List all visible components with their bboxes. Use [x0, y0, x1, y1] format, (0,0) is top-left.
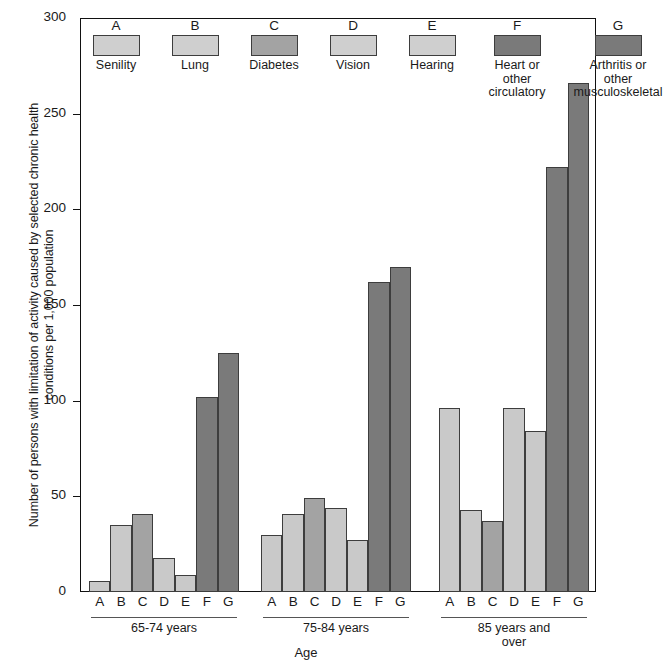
bar-65-74-years-D[interactable]: [153, 558, 174, 592]
bar-75-84-years-E[interactable]: [347, 540, 368, 592]
group-rule: [91, 617, 237, 618]
x-axis-label-F: F: [375, 594, 383, 609]
bar-65-74-years-A[interactable]: [89, 581, 110, 592]
bar-85-years-and-over-F[interactable]: [546, 167, 567, 592]
legend-label-line: Arthritis or: [563, 59, 667, 73]
bar-65-74-years-E[interactable]: [175, 575, 196, 592]
y-axis-tick-mark: [73, 209, 80, 210]
y-axis-tick-mark: [73, 401, 80, 402]
legend-key-letter: G: [563, 18, 667, 33]
y-axis-tick-label: 200: [43, 200, 66, 215]
chart-legend: ASenilityBLungCDiabetesDVisionEHearingFH…: [80, 18, 596, 108]
x-axis-title: Age: [0, 645, 612, 660]
y-axis-tick-mark: [73, 114, 80, 115]
x-axis-label-B: B: [467, 594, 476, 609]
legend-label-line: musculoskeletal: [563, 86, 667, 100]
bar-85-years-and-over-G[interactable]: [568, 83, 589, 592]
bar-75-84-years-G[interactable]: [390, 267, 411, 592]
bar-75-84-years-D[interactable]: [325, 508, 346, 592]
legend-label: Heart orothercirculatory: [462, 59, 572, 100]
bar-65-74-years-C[interactable]: [132, 514, 153, 592]
legend-key-letter: F: [462, 18, 572, 33]
x-axis-label-A: A: [95, 594, 104, 609]
y-axis-title-line-1: Number of persons with limitation of act…: [27, 35, 42, 595]
legend-label-line: other: [462, 73, 572, 87]
legend-swatch-icon: [93, 35, 140, 56]
bar-85-years-and-over-A[interactable]: [439, 408, 460, 592]
x-axis-label-C: C: [138, 594, 148, 609]
legend-item-G[interactable]: GArthritis orothermusculoskeletal: [563, 18, 667, 100]
group-label: 65-74 years: [131, 621, 197, 635]
x-axis-label-C: C: [310, 594, 320, 609]
bar-85-years-and-over-B[interactable]: [460, 510, 481, 592]
x-axis-label-G: G: [223, 594, 234, 609]
x-axis-label-C: C: [488, 594, 498, 609]
x-axis-label-E: E: [531, 594, 540, 609]
legend-label-line: other: [563, 73, 667, 87]
legend-swatch-icon: [172, 35, 219, 56]
group-rule: [441, 617, 587, 618]
legend-swatch-icon: [595, 35, 642, 56]
x-axis-label-G: G: [395, 594, 406, 609]
x-axis-label-E: E: [353, 594, 362, 609]
y-axis-tick-label: 150: [43, 296, 66, 311]
bar-65-74-years-B[interactable]: [110, 525, 131, 592]
x-axis-label-B: B: [117, 594, 126, 609]
bar-65-74-years-F[interactable]: [196, 397, 217, 592]
legend-item-F[interactable]: FHeart orothercirculatory: [462, 18, 572, 100]
x-axis-label-F: F: [203, 594, 211, 609]
y-axis-tick-label: 0: [58, 583, 66, 598]
x-axis-label-E: E: [181, 594, 190, 609]
bar-65-74-years-G[interactable]: [218, 353, 239, 592]
x-axis-label-A: A: [445, 594, 454, 609]
y-axis-tick-label: 100: [43, 392, 66, 407]
legend-swatch-icon: [251, 35, 298, 56]
bar-75-84-years-F[interactable]: [368, 282, 389, 592]
x-axis-label-A: A: [267, 594, 276, 609]
bar-85-years-and-over-E[interactable]: [525, 431, 546, 592]
legend-label: Arthritis orothermusculoskeletal: [563, 59, 667, 100]
legend-label-line: Heart or: [462, 59, 572, 73]
legend-swatch-icon: [494, 35, 541, 56]
bar-75-84-years-A[interactable]: [261, 535, 282, 592]
y-axis-tick-label: 250: [43, 105, 66, 120]
x-axis-label-D: D: [331, 594, 341, 609]
group-label: 75-84 years: [303, 621, 369, 635]
y-axis-tick-mark: [73, 305, 80, 306]
x-axis-label-G: G: [573, 594, 584, 609]
x-axis-label-D: D: [159, 594, 169, 609]
legend-label-line: circulatory: [462, 86, 572, 100]
bar-75-84-years-C[interactable]: [304, 498, 325, 592]
bar-85-years-and-over-D[interactable]: [503, 408, 524, 592]
legend-swatch-icon: [330, 35, 377, 56]
y-axis-tick-label: 50: [51, 487, 66, 502]
x-axis-category-labels: ABCDEFGABCDEFGABCDEFG: [81, 594, 594, 614]
bar-85-years-and-over-C[interactable]: [482, 521, 503, 592]
x-axis-label-F: F: [553, 594, 561, 609]
y-axis-tick-mark: [73, 496, 80, 497]
legend-swatch-icon: [409, 35, 456, 56]
bar-75-84-years-B[interactable]: [282, 514, 303, 592]
x-axis-label-D: D: [509, 594, 519, 609]
x-axis-label-B: B: [289, 594, 298, 609]
group-rule: [263, 617, 409, 618]
